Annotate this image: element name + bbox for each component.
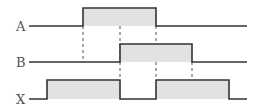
pulse-fill bbox=[156, 80, 229, 99]
pulse-fill bbox=[120, 44, 192, 62]
pulse-fill bbox=[83, 8, 156, 26]
signal-b: B bbox=[16, 44, 247, 70]
pulse-fill bbox=[47, 80, 120, 99]
signal-a: A bbox=[15, 8, 247, 34]
signal-x: X bbox=[16, 80, 247, 107]
signal-label: B bbox=[16, 55, 26, 70]
signal-label: A bbox=[15, 19, 26, 34]
signals: ABX bbox=[15, 8, 247, 107]
signal-label: X bbox=[16, 92, 26, 107]
timing-diagram: ABX bbox=[0, 0, 260, 112]
